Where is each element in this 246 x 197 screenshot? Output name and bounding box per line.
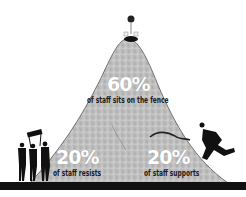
fence-percent: 60%: [107, 75, 149, 94]
resists-percent: 20%: [56, 148, 98, 167]
fence-label: of staff sits on the fence: [87, 97, 168, 105]
figure-on-peak-icon: [124, 16, 138, 43]
supports-label: of staff supports: [144, 170, 199, 178]
ground-bar: [0, 182, 246, 190]
supports-percent: 20%: [147, 148, 189, 167]
infographic: 60% of staff sits on the fence 20% of st…: [0, 0, 246, 197]
running-man-icon: [200, 123, 236, 161]
resists-label: of staff resists: [53, 170, 101, 178]
